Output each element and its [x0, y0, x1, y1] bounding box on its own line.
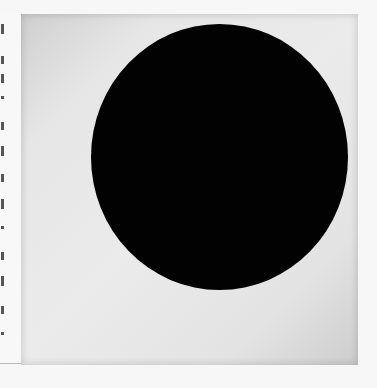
text-fragment [1, 199, 4, 209]
text-fragment [1, 56, 4, 64]
text-fragment [1, 146, 4, 156]
text-fragment [1, 174, 4, 182]
painting-canvas [21, 14, 358, 365]
text-fragment [1, 96, 4, 99]
text-fragment [1, 276, 4, 286]
text-fragment [1, 306, 4, 314]
black-circle [91, 24, 348, 290]
text-fragment [1, 74, 4, 83]
text-fragment [1, 226, 4, 229]
cropped-text-column [0, 14, 20, 364]
divider [0, 363, 22, 364]
text-fragment [1, 252, 4, 260]
text-fragment [1, 122, 4, 130]
text-fragment [1, 332, 4, 335]
text-fragment [1, 24, 4, 34]
